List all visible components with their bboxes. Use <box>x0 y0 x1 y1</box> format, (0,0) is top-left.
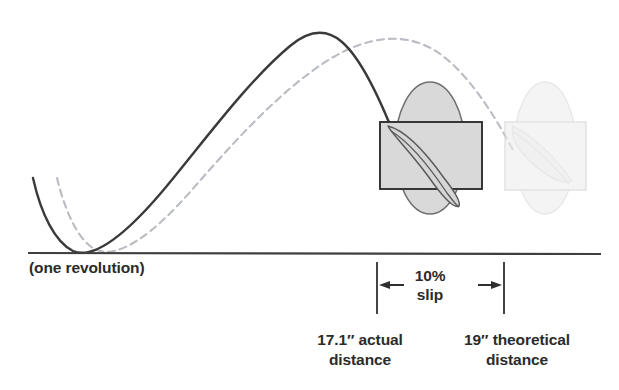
theoretical-distance-label: 19″ theoretical distance <box>436 330 598 370</box>
slip-arrow-left <box>379 281 404 289</box>
actual-distance-line2: distance <box>285 350 435 370</box>
actual-distance-line1: 17.1″ actual <box>285 330 435 350</box>
slip-label-line1: 10% <box>404 266 456 285</box>
theoretical-position-propeller <box>505 82 586 214</box>
slip-label: 10% slip <box>404 266 456 304</box>
baseline <box>28 253 601 254</box>
actual-path-curve <box>33 33 401 253</box>
theoretical-distance-line2: distance <box>436 350 598 370</box>
actual-position-propeller <box>380 82 482 214</box>
one-revolution-label: (one revolution) <box>29 259 145 277</box>
theoretical-distance-line1: 19″ theoretical <box>436 330 598 350</box>
actual-distance-label: 17.1″ actual distance <box>285 330 435 370</box>
slip-label-line2: slip <box>404 285 456 304</box>
figure-container: (one revolution) 10% slip 17.1″ actual d… <box>0 0 619 390</box>
slip-arrow-right <box>478 281 502 289</box>
